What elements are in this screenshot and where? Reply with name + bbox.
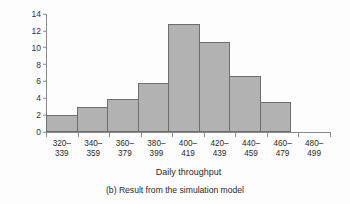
histogram-figure: Frequency 02468101214 320–339340–359360–… <box>0 0 350 204</box>
x-axis-tick-marks <box>46 133 331 137</box>
x-label-line-1: 400– <box>179 139 197 148</box>
x-axis-tick-mark <box>46 133 47 137</box>
x-label-line-2: 419 <box>172 149 204 159</box>
x-axis-tick-mark <box>204 133 205 137</box>
x-axis-tick-mark <box>109 133 110 137</box>
x-axis-category-label: 340–359 <box>78 139 110 159</box>
x-axis-category-label: 380–399 <box>141 139 173 159</box>
bar-series <box>46 14 330 132</box>
bar <box>199 42 231 132</box>
bar <box>138 83 170 132</box>
y-axis-tick: 14 <box>32 10 46 19</box>
y-axis-tick: 4 <box>36 94 46 103</box>
x-label-line-1: 340– <box>84 139 102 148</box>
bar <box>46 115 78 132</box>
bar <box>77 107 109 132</box>
y-axis-tick: 0 <box>36 128 46 137</box>
y-axis-tick-label: 8 <box>36 60 43 69</box>
bar <box>168 24 200 132</box>
y-axis-tick: 10 <box>32 43 46 52</box>
y-axis-tick-label: 0 <box>36 128 43 137</box>
x-label-line-1: 360– <box>116 139 134 148</box>
x-label-line-2: 479 <box>267 149 299 159</box>
y-axis-tick-label: 2 <box>36 111 43 120</box>
x-label-line-1: 320– <box>53 139 71 148</box>
y-axis-tick: 12 <box>32 27 46 36</box>
x-axis-tick-mark <box>298 133 299 137</box>
x-axis-tick-mark <box>330 133 331 137</box>
x-label-line-2: 399 <box>141 149 173 159</box>
x-axis-tick-mark <box>172 133 173 137</box>
x-axis-tick-mark <box>267 133 268 137</box>
x-label-line-2: 439 <box>204 149 236 159</box>
x-label-line-1: 480– <box>305 139 323 148</box>
y-axis-tick: 8 <box>36 60 46 69</box>
x-label-line-2: 359 <box>78 149 110 159</box>
bar <box>260 102 292 132</box>
x-label-line-1: 460– <box>273 139 291 148</box>
y-axis-tick: 6 <box>36 77 46 86</box>
x-axis-category-label: 400–419 <box>172 139 204 159</box>
x-axis-category-label: 320–339 <box>46 139 78 159</box>
x-label-line-2: 379 <box>109 149 141 159</box>
x-label-line-2: 459 <box>235 149 267 159</box>
y-axis-tick-label: 14 <box>32 10 43 19</box>
bar <box>107 99 139 132</box>
x-label-line-1: 380– <box>147 139 165 148</box>
y-axis-tick-label: 6 <box>36 77 43 86</box>
bar <box>229 76 261 132</box>
y-axis-tick: 2 <box>36 111 46 120</box>
x-axis-category-label: 460–479 <box>267 139 299 159</box>
y-axis-tick-label: 4 <box>36 94 43 103</box>
x-label-line-2: 499 <box>298 149 330 159</box>
x-axis-tick-mark <box>235 133 236 137</box>
x-label-line-1: 440– <box>242 139 260 148</box>
x-axis-category-label: 360–379 <box>109 139 141 159</box>
x-label-line-1: 420– <box>210 139 228 148</box>
x-axis-tick-mark <box>78 133 79 137</box>
x-axis-category-label: 480–499 <box>298 139 330 159</box>
x-label-line-2: 339 <box>46 149 78 159</box>
x-axis-tick-mark <box>141 133 142 137</box>
x-axis-category-label: 420–439 <box>204 139 236 159</box>
x-axis-category-labels: 320–339340–359360–379380–399400–419420–4… <box>46 139 331 159</box>
x-axis-category-label: 440–459 <box>235 139 267 159</box>
y-axis-tick-label: 12 <box>32 27 43 36</box>
x-axis-title: Daily throughput <box>46 167 331 177</box>
plot-area: 02468101214 <box>46 14 330 132</box>
y-axis-tick-label: 10 <box>32 43 43 52</box>
figure-caption: (b) Result from the simulation model <box>0 185 350 195</box>
